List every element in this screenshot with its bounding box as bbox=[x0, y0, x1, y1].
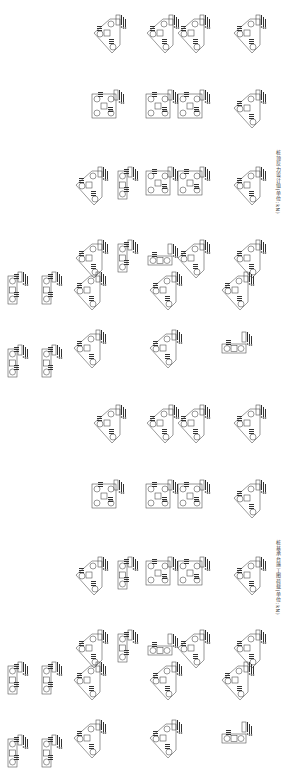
pile-cap-tri bbox=[76, 167, 108, 205]
pile-cap-rect2v bbox=[118, 630, 138, 662]
pile-cap-tri bbox=[234, 630, 266, 668]
pile-cap-rect2h bbox=[148, 244, 178, 265]
pile-cap-rect2h bbox=[148, 634, 178, 655]
pile-cap-quad bbox=[92, 480, 124, 508]
pile-cap-quad bbox=[146, 167, 178, 195]
pile-cap-tri bbox=[234, 90, 266, 128]
pile-cap-quad bbox=[146, 480, 178, 508]
pile-cap-rect2v bbox=[42, 662, 62, 694]
pile-cap-quad bbox=[146, 90, 178, 118]
pile-cap-tri bbox=[234, 167, 266, 205]
pile-cap-tri bbox=[74, 330, 106, 368]
pile-cap-tri bbox=[74, 720, 106, 758]
pile-cap-quad bbox=[178, 480, 210, 508]
pile-cap-tri bbox=[150, 330, 182, 368]
pile-cap-tri bbox=[147, 15, 179, 53]
pile-cap-rect2v bbox=[118, 240, 138, 272]
pile-cap-tri bbox=[178, 240, 210, 278]
pile-cap-tri bbox=[150, 272, 182, 310]
pile-cap-rect2v bbox=[118, 557, 138, 589]
pile-cap-tri bbox=[234, 240, 266, 278]
pile-cap-quad bbox=[92, 90, 124, 118]
pile-cap-tri bbox=[150, 662, 182, 700]
pile-cap-tri bbox=[178, 630, 210, 668]
pile-cap-rect2v bbox=[118, 167, 138, 199]
pile-cap-tri bbox=[222, 662, 254, 700]
pile-cap-tri bbox=[74, 272, 106, 310]
pile-cap-quad bbox=[178, 167, 210, 195]
pile-cap-tri bbox=[234, 15, 266, 53]
panel-caption-upper: 桩顶反力设计值(单位:kN) bbox=[275, 150, 282, 214]
pile-cap-tri bbox=[178, 15, 210, 53]
pile-cap-rect2h bbox=[222, 332, 252, 353]
pile-cap-tri bbox=[76, 557, 108, 595]
pile-cap-tri bbox=[150, 720, 182, 758]
pile-cap-rect2v bbox=[8, 345, 28, 377]
pile-cap-rect2v bbox=[8, 735, 28, 767]
pile-cap-tri bbox=[76, 240, 108, 278]
pile-cap-tri bbox=[94, 405, 126, 443]
pile-cap-tri bbox=[222, 272, 254, 310]
pile-cap-tri bbox=[76, 630, 108, 668]
drawing-canvas bbox=[0, 0, 285, 778]
pile-cap-rect2v bbox=[8, 662, 28, 694]
pile-cap-quad bbox=[178, 557, 210, 585]
pile-cap-quad bbox=[178, 90, 210, 118]
pile-cap-tri bbox=[94, 15, 126, 53]
pile-cap-tri bbox=[234, 557, 266, 595]
panel-caption-lower: 桩基承台施工图荷载(单位:kN) bbox=[275, 540, 282, 615]
pile-cap-rect2v bbox=[42, 735, 62, 767]
pile-cap-rect2v bbox=[42, 345, 62, 377]
pile-cap-tri bbox=[178, 405, 210, 443]
pile-cap-quad bbox=[146, 557, 178, 585]
pile-caps-layer bbox=[8, 15, 266, 767]
pile-cap-rect2v bbox=[8, 272, 28, 304]
pile-cap-tri bbox=[234, 405, 266, 443]
pile-cap-rect2h bbox=[222, 722, 252, 743]
pile-cap-tri bbox=[234, 480, 266, 518]
pile-cap-tri bbox=[74, 662, 106, 700]
pile-cap-rect2v bbox=[42, 272, 62, 304]
pile-cap-tri bbox=[147, 405, 179, 443]
